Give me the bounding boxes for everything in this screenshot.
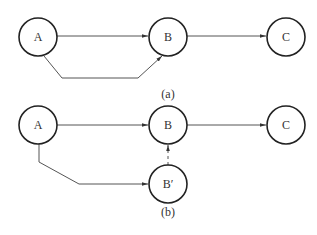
node-a: A (19, 106, 57, 144)
svg-text:B′: B′ (163, 177, 174, 191)
caption-b: (b) (161, 205, 175, 219)
diagram-b: A B C B′ (b) (19, 106, 305, 219)
node-c: C (267, 18, 305, 56)
node-a: A (19, 18, 57, 56)
svg-text:B: B (164, 30, 172, 44)
diagram-a: A B C (a) (19, 18, 305, 101)
svg-text:A: A (34, 118, 43, 132)
caption-a: (a) (161, 87, 174, 101)
node-b-prime: B′ (149, 165, 187, 203)
svg-text:C: C (282, 30, 290, 44)
edge-a-to-b-prime (39, 144, 148, 184)
svg-text:B: B (164, 118, 172, 132)
network-diagram: A B C (a) A B C B′ (0, 0, 317, 235)
node-c: C (267, 106, 305, 144)
node-b: B (149, 106, 187, 144)
node-b: B (149, 18, 187, 56)
svg-text:C: C (282, 118, 290, 132)
svg-text:A: A (34, 30, 43, 44)
edge-a-to-b-bent (44, 56, 162, 78)
